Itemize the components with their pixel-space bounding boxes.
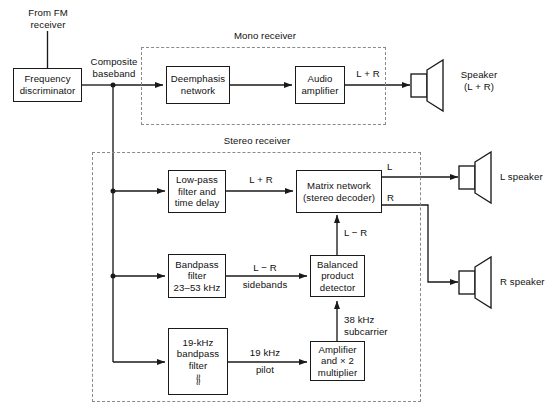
label-stereo-l-plus-r: L + R (240, 174, 282, 186)
block-line: (stereo decoder) (303, 192, 375, 204)
label-38khz-subcarrier: 38 kHz subcarrier (344, 314, 388, 337)
block-amplifier-x2-multiplier[interactable]: Amplifier and × 2 multiplier (310, 341, 365, 381)
block-deemphasis-network[interactable]: Deemphasis network (166, 66, 230, 104)
label-l-minus-r: L − R (344, 227, 367, 239)
block-line: Balanced (317, 259, 358, 271)
block-line: multiplier (318, 367, 357, 379)
label-l-minus-r-sidebands: L − R sidebands (233, 262, 297, 290)
speaker-icon (459, 257, 491, 308)
label-speaker-mono: Speaker (L + R) (444, 69, 514, 92)
block-line: amplifier (301, 85, 338, 97)
block-19khz-bandpass-filter[interactable]: 19-kHz bandpass filter ≈≈ (168, 328, 228, 395)
block-line: network (181, 85, 215, 97)
label-matrix-output-R: R (387, 192, 394, 204)
wire-matrix-R-to-rspeaker (382, 205, 458, 282)
speaker-icon-group (411, 60, 491, 308)
block-line: product (321, 270, 354, 282)
block-line: Amplifier (318, 344, 356, 356)
block-matrix-network[interactable]: Matrix network (stereo decoder) (296, 170, 382, 213)
block-frequency-discriminator[interactable]: Frequency discriminator (13, 68, 82, 102)
crystal-resonator-icon: ≈≈ (192, 376, 203, 386)
block-line: and × 2 (321, 355, 354, 367)
block-line: 19-kHz (183, 337, 214, 349)
block-line: filter (189, 360, 208, 372)
block-line: filter and (178, 186, 216, 198)
block-line: Deemphasis (171, 73, 225, 85)
label-from-fm-receiver: From FM receiver (12, 7, 84, 30)
block-line: 23–53 kHz (174, 282, 221, 294)
label-matrix-output-L: L (387, 161, 392, 173)
block-bandpass-filter-23-53[interactable]: Bandpass filter 23–53 kHz (168, 254, 226, 298)
block-line: detector (320, 282, 355, 294)
label-composite-baseband: Composite baseband (83, 56, 145, 79)
label-19khz-pilot: 19 kHz pilot (234, 347, 296, 375)
block-line: bandpass (177, 348, 219, 360)
junction-dot (111, 274, 116, 279)
speaker-icon (411, 60, 443, 111)
block-line: Matrix network (307, 180, 371, 192)
block-line: Audio (307, 73, 332, 85)
label-mono-l-plus-r: L + R (349, 68, 387, 80)
block-line: Frequency (24, 73, 70, 85)
block-line: time delay (175, 197, 220, 209)
speaker-icon (459, 152, 491, 203)
block-line: Low-pass (176, 174, 218, 186)
group-label-mono-receiver: Mono receiver (205, 30, 325, 42)
block-balanced-product-detector[interactable]: Balanced product detector (310, 255, 365, 297)
block-diagram-canvas: Mono receiver Stereo receiver Frequency … (0, 0, 556, 417)
block-line: Bandpass (175, 259, 218, 271)
junction-dot (111, 83, 116, 88)
block-line: filter (188, 270, 207, 282)
block-line: discriminator (20, 85, 76, 97)
junction-dot (111, 189, 116, 194)
group-label-stereo-receiver: Stereo receiver (197, 135, 317, 147)
block-audio-amplifier[interactable]: Audio amplifier (295, 66, 345, 104)
block-lowpass-filter-time-delay[interactable]: Low-pass filter and time delay (168, 170, 226, 213)
label-l-speaker: L speaker (500, 171, 543, 183)
label-r-speaker: R speaker (500, 276, 545, 288)
